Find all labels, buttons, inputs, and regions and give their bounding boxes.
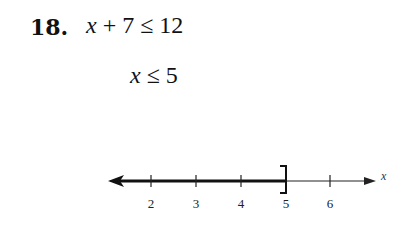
tick-label: 4 <box>238 196 245 211</box>
axis-label: x <box>380 169 387 183</box>
tick-label: 5 <box>283 196 290 211</box>
number-line: 2 3 4 5 6 x <box>0 0 404 226</box>
tick-label: 6 <box>327 196 334 211</box>
tick-label: 2 <box>148 196 155 211</box>
tick-label: 3 <box>193 196 200 211</box>
right-arrow-icon <box>364 177 376 185</box>
